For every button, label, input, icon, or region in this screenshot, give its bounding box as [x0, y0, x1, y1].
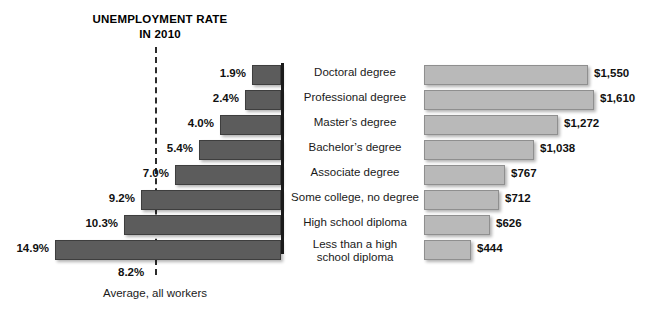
median-weekly-earnings-panel: MEDIAN WEEKLY EARNINGS IN 2010 $1,550$1,… — [400, 0, 658, 311]
unemployment-bar — [141, 190, 281, 210]
unemployment-chart-title: UNEMPLOYMENT RATE IN 2010 — [52, 12, 268, 42]
unemployment-bar-value-label: 2.4% — [213, 92, 239, 104]
unemployment-average-value: 8.2% — [118, 266, 144, 278]
earnings-bar-row: $444 — [424, 240, 471, 260]
unemployment-bar-row: 2.4% — [245, 90, 281, 110]
earnings-bar-row: $767 — [424, 165, 505, 185]
unemployment-bar-value-label: 7.0% — [143, 167, 169, 179]
earnings-bar-row: $1,038 — [424, 140, 534, 160]
education-pays-infographic: UNEMPLOYMENT RATE IN 2010 1.9%2.4%4.0%5.… — [0, 0, 658, 311]
unemployment-bar-row: 10.3% — [124, 215, 281, 235]
unemployment-bar — [220, 115, 281, 135]
unemployment-title-line1: UNEMPLOYMENT RATE — [93, 13, 228, 25]
earnings-bar-value-label: $712 — [505, 192, 531, 204]
education-level-label-line1: Less than a high — [313, 238, 397, 250]
earnings-bar-value-label: $1,610 — [600, 92, 635, 104]
earnings-bar-value-label: $444 — [477, 242, 503, 254]
unemployment-bar-value-label: 10.3% — [85, 217, 118, 229]
unemployment-bar — [199, 140, 281, 160]
unemployment-bar-row: 1.9% — [252, 65, 281, 85]
earnings-bar-row: $712 — [424, 190, 499, 210]
education-level-label-line2: school diploma — [317, 251, 394, 263]
earnings-bar-value-label: $1,550 — [594, 67, 629, 79]
unemployment-bar-value-label: 4.0% — [188, 117, 214, 129]
unemployment-rate-panel: UNEMPLOYMENT RATE IN 2010 1.9%2.4%4.0%5.… — [0, 0, 300, 311]
unemployment-bar-value-label: 14.9% — [16, 242, 49, 254]
earnings-bar-row: $1,610 — [424, 90, 594, 110]
earnings-bar — [424, 165, 505, 185]
unemployment-average-caption: Average, all workers — [30, 287, 280, 299]
unemployment-bar — [245, 90, 281, 110]
earnings-bar — [424, 90, 594, 110]
earnings-bar — [424, 215, 490, 235]
unemployment-bar-row: 14.9% — [55, 240, 281, 260]
unemployment-bar-row: 4.0% — [220, 115, 281, 135]
unemployment-bar-row: 7.0% — [175, 165, 281, 185]
earnings-bar-value-label: $1,038 — [540, 142, 575, 154]
earnings-bar-value-label: $626 — [496, 217, 522, 229]
unemployment-bar-value-label: 5.4% — [167, 142, 193, 154]
earnings-bar-value-label: $1,272 — [564, 117, 599, 129]
earnings-bar-value-label: $767 — [511, 167, 537, 179]
earnings-bar — [424, 240, 471, 260]
unemployment-bar — [55, 240, 281, 260]
earnings-bar — [424, 190, 499, 210]
earnings-bar — [424, 65, 588, 85]
unemployment-bar-row: 9.2% — [141, 190, 281, 210]
earnings-bar-row: $1,550 — [424, 65, 588, 85]
unemployment-bar-row: 5.4% — [199, 140, 281, 160]
unemployment-axis-line — [281, 63, 284, 254]
unemployment-bar — [175, 165, 281, 185]
unemployment-bar — [252, 65, 281, 85]
earnings-bar-row: $626 — [424, 215, 490, 235]
unemployment-bar — [124, 215, 281, 235]
earnings-bar — [424, 140, 534, 160]
unemployment-bar-value-label: 1.9% — [220, 67, 246, 79]
unemployment-bar-value-label: 9.2% — [109, 192, 135, 204]
unemployment-title-line2: IN 2010 — [52, 27, 268, 42]
earnings-bar-row: $1,272 — [424, 115, 558, 135]
earnings-bar — [424, 115, 558, 135]
